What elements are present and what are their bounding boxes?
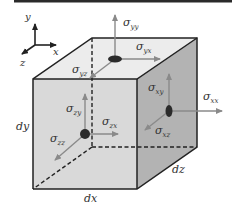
z-axis-label: z [19, 57, 26, 68]
z-axis-arrow [22, 45, 35, 54]
top-border-bar [14, 0, 232, 3]
coordinate-axes: y x z [19, 11, 59, 68]
x-axis-label: x [53, 46, 59, 57]
dx-label: dx [84, 192, 98, 205]
front-stress-point [80, 129, 90, 139]
dz-label: dz [172, 163, 185, 176]
sigma-yy-label: σyy [123, 16, 139, 31]
y-axis-label: y [24, 11, 31, 22]
stress-cube-diagram: y x z σyy σyx σyz σzy σzx σzz [0, 0, 235, 214]
dy-label: dy [16, 120, 30, 133]
top-stress-point [108, 56, 122, 63]
right-stress-point [166, 105, 173, 117]
sigma-xx-label: σxx [203, 90, 218, 105]
